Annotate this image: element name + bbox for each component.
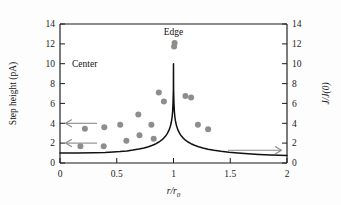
right-axis-tick-labels: 0 2 4 6 8 10 12 14: [292, 19, 302, 168]
data-point: [188, 95, 194, 101]
left-tick-label-8: 8: [50, 79, 55, 89]
x-axis-title: r/r0: [167, 186, 181, 199]
data-point: [148, 122, 154, 128]
right-tick-label-14: 14: [292, 19, 302, 29]
data-point: [77, 143, 83, 149]
x-tick-label-2: 2: [285, 169, 290, 179]
left-axis-title: Step height (pA): [8, 62, 19, 125]
data-point: [182, 93, 188, 99]
x-tick-label-1: 1: [171, 169, 176, 179]
right-axis: 0 2 4 6 8 10 12 14 J/J(0): [282, 19, 332, 168]
edge-label: Edge: [164, 27, 184, 37]
left-axis-tick-labels: 0 2 4 6 8 10 12 14: [46, 19, 56, 168]
right-tick-label-8: 8: [292, 79, 297, 89]
right-axis-title: J/J(0): [321, 82, 332, 104]
data-point: [151, 136, 157, 142]
left-tick-label-10: 10: [46, 59, 56, 69]
left-tick-label-14: 14: [46, 19, 56, 29]
data-point: [135, 111, 141, 117]
data-point: [123, 138, 129, 144]
right-tick-label-2: 2: [292, 138, 297, 148]
x-tick-label-1.5: 1.5: [224, 169, 236, 179]
data-point: [101, 124, 107, 130]
left-tick-label-6: 6: [50, 99, 55, 109]
data-point: [161, 99, 167, 105]
right-tick-label-6: 6: [292, 99, 297, 109]
data-point: [195, 122, 201, 128]
x-tick-label-0.5: 0.5: [111, 169, 123, 179]
data-point: [172, 40, 178, 46]
right-tick-label-10: 10: [292, 59, 302, 69]
x-axis-tick-labels: 0 0.5 1 1.5 2: [58, 169, 290, 179]
bottom-axis: 0 0.5 1 1.5 2 r/r0: [58, 158, 290, 199]
left-tick-label-0: 0: [50, 158, 55, 168]
right-tick-label-4: 4: [292, 119, 297, 129]
right-tick-label-0: 0: [292, 158, 297, 168]
data-point: [82, 126, 88, 132]
x-axis-title-main: r/r: [167, 186, 177, 196]
left-tick-label-12: 12: [46, 39, 56, 49]
data-point: [101, 143, 107, 149]
data-point: [117, 122, 123, 128]
chart-svg: 0 2 4 6 8 10 12 14 Step height (pA): [0, 0, 341, 205]
left-tick-label-4: 4: [50, 119, 55, 129]
right-tick-label-12: 12: [292, 39, 302, 49]
data-point: [156, 90, 162, 96]
left-axis: 0 2 4 6 8 10 12 14 Step height (pA): [8, 19, 65, 168]
center-label: Center: [72, 59, 98, 69]
x-tick-label-0: 0: [58, 169, 63, 179]
left-tick-label-2: 2: [50, 138, 55, 148]
data-point: [205, 126, 211, 132]
data-point: [137, 132, 143, 138]
chart-figure: 0 2 4 6 8 10 12 14 Step height (pA): [0, 0, 341, 205]
x-axis-title-sub: 0: [177, 191, 181, 199]
